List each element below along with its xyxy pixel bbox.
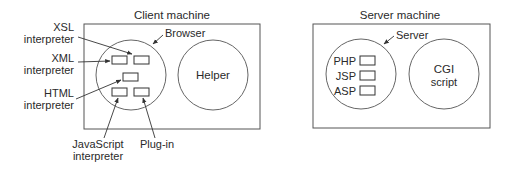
html-label-line2: interpreter [24, 99, 74, 111]
asp-box [360, 86, 375, 95]
php-box [360, 56, 375, 65]
jsp-box [360, 71, 375, 80]
plugin-label: Plug-in [140, 138, 174, 150]
php-label: PHP [333, 55, 356, 67]
html-interpreter-box [123, 73, 138, 81]
xsl-label-line1: XSL [53, 21, 74, 33]
cgi-label-line1: CGI [434, 63, 454, 75]
browser-arrow [153, 35, 163, 44]
server-machine: Server machine Server PHP JSP ASP CGI sc… [313, 9, 490, 128]
web-architecture-diagram: Client machine Browser XSL interpreter X… [0, 0, 511, 171]
client-machine: Client machine Browser XSL interpreter X… [24, 9, 260, 162]
javascript-label-line2: interpreter [73, 150, 123, 162]
xml-interpreter-box [112, 56, 127, 64]
xsl-interpreter-box [134, 56, 149, 64]
server-label: Server [396, 29, 429, 41]
client-machine-title: Client machine [134, 9, 210, 21]
xsl-label-line2: interpreter [24, 33, 74, 45]
cgi-label-line2: script [431, 76, 457, 88]
server-arrow [384, 36, 394, 44]
plugin-box [134, 88, 149, 96]
asp-label: ASP [334, 85, 356, 97]
html-label-line1: HTML [44, 87, 74, 99]
browser-label: Browser [165, 27, 206, 39]
xml-label-line2: interpreter [24, 64, 74, 76]
server-machine-title: Server machine [360, 9, 441, 21]
jsp-label: JSP [336, 70, 356, 82]
helper-label: Helper [196, 69, 230, 81]
javascript-interpreter-box [112, 88, 127, 96]
javascript-label-line1: JavaScript [72, 138, 123, 150]
xml-label-line1: XML [51, 52, 74, 64]
